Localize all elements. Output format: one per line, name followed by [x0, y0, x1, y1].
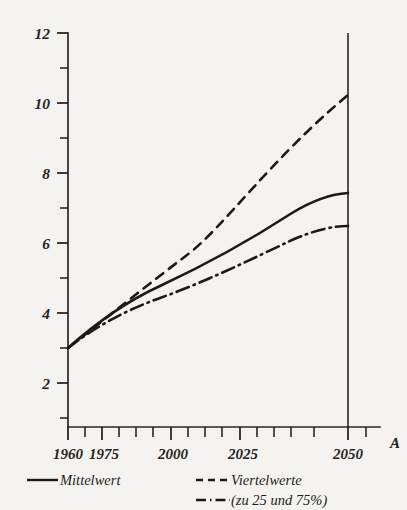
legend-label-mittelwert: Mittelwert: [59, 472, 121, 488]
chart-canvas: 12 10 8 6 4 2: [0, 0, 407, 510]
series-mittelwert-line: [68, 193, 348, 348]
x-tick-label-2025: 2025: [227, 446, 259, 462]
series-viertelwerte-line: [68, 95, 348, 348]
y-tick-label-4: 4: [41, 305, 50, 322]
series-quartile-line: [68, 226, 348, 348]
legend-label-quartile: (zu 25 und 75%): [231, 492, 327, 509]
chart-legend: Mittelwert Viertelwerte (zu 25 und 75%): [27, 472, 327, 509]
x-axis-marker-label: A: [389, 435, 400, 451]
chart-figure: 12 10 8 6 4 2: [0, 0, 407, 510]
y-tick-label-8: 8: [42, 165, 50, 182]
x-axis: 1960 1975 2000 2025 2050 A: [53, 427, 400, 462]
y-tick-label-12: 12: [35, 25, 51, 42]
x-tick-label-2000: 2000: [157, 446, 189, 462]
x-tick-label-1960: 1960: [53, 446, 84, 462]
y-tick-label-2: 2: [41, 375, 50, 392]
x-tick-label-2050: 2050: [332, 446, 364, 462]
y-tick-label-6: 6: [42, 235, 50, 252]
y-tick-label-10: 10: [35, 95, 51, 112]
y-axis: 12 10 8 6 4 2: [35, 25, 69, 427]
legend-label-viertelwerte: Viertelwerte: [231, 472, 302, 488]
x-tick-label-1975: 1975: [89, 446, 120, 462]
